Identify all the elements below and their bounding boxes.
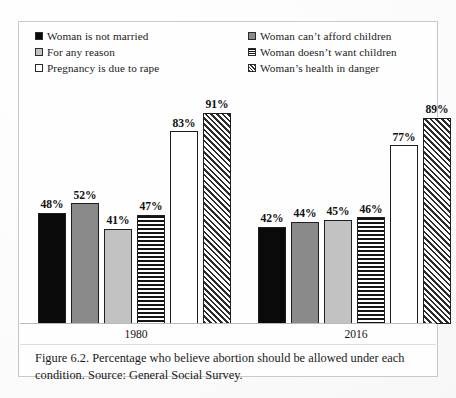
- bar-slot: 42%: [258, 92, 286, 324]
- bar-value-label: 48%: [41, 199, 64, 211]
- bar-slot: 41%: [104, 92, 132, 324]
- legend-column-right: Woman can’t afford children Woman doesn’…: [231, 28, 427, 76]
- legend-item-pregnancy-due-to-rape: Pregnancy is due to rape: [35, 60, 231, 76]
- legend-label: For any reason: [47, 46, 115, 58]
- bar-pregnancy-due-to-rape-2016: [390, 145, 418, 324]
- bar-woman-not-married-2016: [258, 227, 286, 324]
- bar-slot: 77%: [390, 92, 418, 324]
- bar-group-2016: 42% 44% 45% 46% 77% 89%: [258, 92, 454, 324]
- bar-value-label: 52%: [74, 190, 97, 202]
- bar-for-any-reason-1980: [104, 229, 132, 324]
- legend-item-health-in-danger: Woman’s health in danger: [248, 60, 427, 76]
- bar-slot: 83%: [170, 92, 198, 324]
- bar-for-any-reason-2016: [324, 220, 352, 324]
- legend-item-woman-not-married: Woman is not married: [35, 28, 231, 44]
- bar-doesnt-want-children-1980: [137, 215, 165, 324]
- bar-value-label: 41%: [107, 215, 130, 227]
- bar-slot: 48%: [38, 92, 66, 324]
- bar-slot: 89%: [423, 92, 451, 324]
- solid-black-swatch-icon: [35, 32, 43, 40]
- bar-health-in-danger-1980: [203, 113, 231, 324]
- legend-label: Woman is not married: [47, 30, 148, 42]
- bar-value-label: 77%: [393, 132, 416, 144]
- x-tick-label-2016: 2016: [316, 328, 396, 341]
- bar-pregnancy-due-to-rape-1980: [170, 131, 198, 324]
- bar-doesnt-want-children-2016: [357, 217, 385, 324]
- legend-item-cant-afford-children: Woman can’t afford children: [248, 28, 427, 44]
- legend-column-left: Woman is not married For any reason Preg…: [35, 28, 231, 76]
- bar-value-label: 91%: [206, 99, 229, 111]
- bar-slot: 45%: [324, 92, 352, 324]
- bar-group-1980: 48% 52% 41% 47% 83% 91%: [38, 92, 234, 324]
- legend-label: Pregnancy is due to rape: [47, 62, 159, 74]
- x-axis-baseline: [20, 323, 436, 324]
- bar-value-label: 83%: [173, 118, 196, 130]
- bar-cant-afford-children-1980: [71, 203, 99, 324]
- bar-value-label: 89%: [426, 104, 449, 116]
- bar-slot: 47%: [137, 92, 165, 324]
- bar-value-label: 47%: [140, 201, 163, 213]
- bar-health-in-danger-2016: [423, 118, 451, 324]
- bar-slot: 52%: [71, 92, 99, 324]
- figure-caption: Figure 6.2. Percentage who believe abort…: [35, 350, 427, 383]
- bar-slot: 46%: [357, 92, 385, 324]
- light-gray-swatch-icon: [35, 48, 43, 56]
- bar-slot: 91%: [203, 92, 231, 324]
- caption-divider: [20, 344, 436, 345]
- bar-value-label: 46%: [360, 204, 383, 216]
- dark-gray-swatch-icon: [248, 32, 256, 40]
- legend-label: Woman doesn’t want children: [260, 46, 397, 58]
- legend-item-doesnt-want-children: Woman doesn’t want children: [248, 44, 427, 60]
- diagonal-hatch-swatch-icon: [248, 64, 256, 72]
- horizontal-lines-swatch-icon: [248, 48, 256, 56]
- bar-slot: 44%: [291, 92, 319, 324]
- bar-value-label: 44%: [294, 208, 317, 220]
- figure-frame: Woman is not married For any reason Preg…: [18, 21, 438, 377]
- bar-value-label: 45%: [327, 206, 350, 218]
- legend-item-for-any-reason: For any reason: [35, 44, 231, 60]
- x-tick-label-1980: 1980: [96, 328, 176, 341]
- legend-label: Woman’s health in danger: [260, 62, 379, 74]
- bar-cant-afford-children-2016: [291, 222, 319, 324]
- white-swatch-icon: [35, 64, 43, 72]
- bar-value-label: 42%: [261, 213, 284, 225]
- bar-woman-not-married-1980: [38, 213, 66, 324]
- legend-label: Woman can’t afford children: [260, 30, 392, 42]
- plot-area: 48% 52% 41% 47% 83% 91%: [20, 92, 436, 324]
- chart-legend: Woman is not married For any reason Preg…: [35, 28, 427, 76]
